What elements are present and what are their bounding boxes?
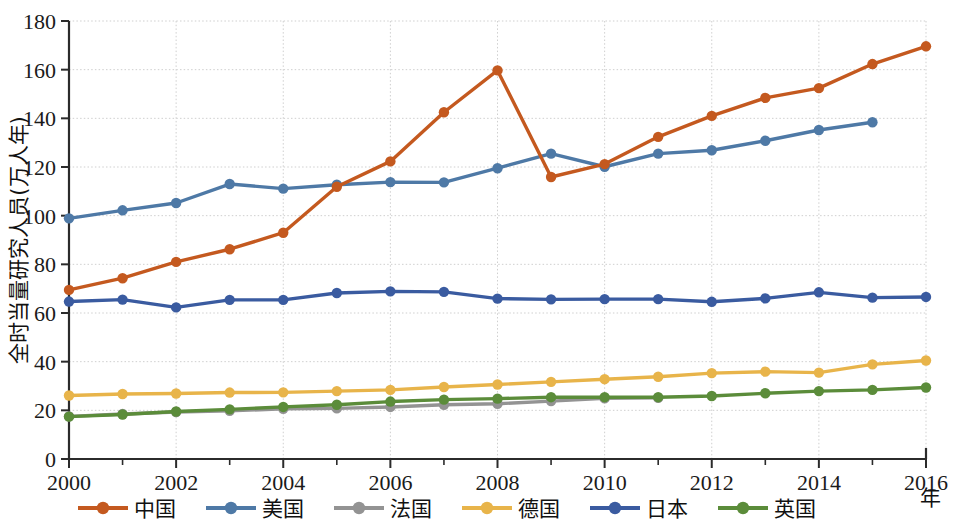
legend-item-日本[interactable]: 日本 bbox=[590, 497, 688, 521]
data-series-layer bbox=[64, 41, 931, 422]
data-point bbox=[224, 179, 234, 189]
data-point bbox=[332, 288, 342, 298]
data-point bbox=[814, 367, 824, 377]
data-point bbox=[707, 111, 717, 121]
y-axis-title-text: 全时当量研究人员(万人年) bbox=[7, 116, 31, 363]
data-point bbox=[653, 294, 663, 304]
legend-swatch-marker bbox=[737, 502, 749, 514]
data-point bbox=[760, 366, 770, 376]
data-point bbox=[492, 293, 502, 303]
x-axis-tick-label: 2004 bbox=[261, 470, 305, 495]
legend-swatch-marker bbox=[225, 502, 237, 514]
data-point bbox=[171, 388, 181, 398]
data-point bbox=[278, 183, 288, 193]
data-point bbox=[332, 182, 342, 192]
data-point bbox=[117, 409, 127, 419]
legend-item-法国[interactable]: 法国 bbox=[334, 497, 432, 521]
data-point bbox=[707, 145, 717, 155]
data-point bbox=[117, 389, 127, 399]
data-point bbox=[224, 295, 234, 305]
data-point bbox=[653, 392, 663, 402]
series-美国 bbox=[64, 117, 878, 224]
data-point bbox=[867, 292, 877, 302]
data-point bbox=[921, 355, 931, 365]
legend-label-text: 中国 bbox=[134, 497, 176, 521]
legend-item-美国[interactable]: 美国 bbox=[206, 497, 304, 521]
x-axis-title: 年 bbox=[920, 486, 941, 510]
data-point bbox=[599, 374, 609, 384]
y-axis-tick-label: 40 bbox=[34, 350, 56, 375]
y-axis-tick-label: 80 bbox=[34, 252, 56, 277]
data-point bbox=[653, 148, 663, 158]
data-point bbox=[64, 213, 74, 223]
data-point bbox=[921, 292, 931, 302]
data-point bbox=[171, 406, 181, 416]
legend-swatch-marker bbox=[97, 502, 109, 514]
data-point bbox=[492, 379, 502, 389]
data-point bbox=[385, 177, 395, 187]
data-point bbox=[439, 107, 449, 117]
x-axis-tick-label: 2002 bbox=[154, 470, 198, 495]
x-axis-tick-labels: 200020022004200620082010201220142016 bbox=[47, 459, 948, 495]
data-point bbox=[760, 93, 770, 103]
y-axis-tick-label: 180 bbox=[23, 9, 56, 34]
data-point bbox=[599, 294, 609, 304]
chart-legend: 中国美国法国德国日本英国 bbox=[78, 497, 816, 521]
data-point bbox=[278, 295, 288, 305]
legend-item-中国[interactable]: 中国 bbox=[78, 497, 176, 521]
data-point bbox=[492, 163, 502, 173]
data-point bbox=[117, 294, 127, 304]
x-axis-title-text: 年 bbox=[920, 486, 941, 510]
x-axis-tick-label: 2000 bbox=[47, 470, 91, 495]
data-point bbox=[599, 159, 609, 169]
x-axis-tick-label: 2012 bbox=[690, 470, 734, 495]
series-日本 bbox=[64, 286, 931, 312]
data-point bbox=[921, 41, 931, 51]
chart-canvas: 020406080100120140160180 200020022004200… bbox=[0, 0, 958, 526]
data-point bbox=[64, 390, 74, 400]
data-point bbox=[171, 302, 181, 312]
data-point bbox=[278, 387, 288, 397]
data-point bbox=[332, 386, 342, 396]
legend-label-text: 美国 bbox=[262, 497, 304, 521]
data-point bbox=[546, 392, 556, 402]
legend-swatch-marker bbox=[481, 502, 493, 514]
data-point bbox=[867, 117, 877, 127]
data-point bbox=[546, 148, 556, 158]
data-point bbox=[760, 293, 770, 303]
y-axis-tick-label: 60 bbox=[34, 301, 56, 326]
data-point bbox=[653, 132, 663, 142]
x-axis-tick-label: 2008 bbox=[476, 470, 520, 495]
data-point bbox=[814, 287, 824, 297]
data-point bbox=[439, 382, 449, 392]
legend-swatch-marker bbox=[353, 502, 365, 514]
legend-item-德国[interactable]: 德国 bbox=[462, 497, 560, 521]
data-point bbox=[439, 287, 449, 297]
legend-label-text: 英国 bbox=[774, 497, 816, 521]
data-point bbox=[385, 385, 395, 395]
data-point bbox=[492, 393, 502, 403]
data-point bbox=[653, 372, 663, 382]
data-point bbox=[814, 125, 824, 135]
x-axis-tick-label: 2010 bbox=[583, 470, 627, 495]
line-chart-figure: 020406080100120140160180 200020022004200… bbox=[0, 0, 958, 526]
y-axis-tick-label: 0 bbox=[45, 447, 56, 472]
legend-label-text: 法国 bbox=[390, 497, 432, 521]
data-point bbox=[867, 385, 877, 395]
data-point bbox=[707, 297, 717, 307]
data-point bbox=[599, 392, 609, 402]
y-axis-tick-label: 160 bbox=[23, 58, 56, 83]
data-point bbox=[224, 404, 234, 414]
x-axis-tick-label: 2014 bbox=[797, 470, 841, 495]
data-point bbox=[64, 285, 74, 295]
y-axis-tick-label: 20 bbox=[34, 398, 56, 423]
data-point bbox=[546, 294, 556, 304]
legend-item-英国[interactable]: 英国 bbox=[718, 497, 816, 521]
data-point bbox=[117, 273, 127, 283]
legend-swatch-marker bbox=[609, 502, 621, 514]
data-point bbox=[760, 136, 770, 146]
data-point bbox=[64, 296, 74, 306]
data-point bbox=[814, 386, 824, 396]
data-point bbox=[385, 286, 395, 296]
data-point bbox=[546, 377, 556, 387]
